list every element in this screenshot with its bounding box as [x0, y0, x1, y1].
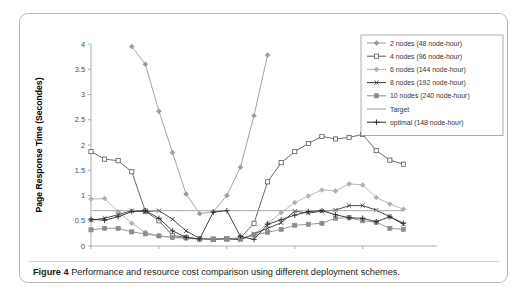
legend-label-0: 2 nodes (48 node-hour) [390, 40, 462, 48]
y-tick-label: 2.5 [75, 115, 85, 124]
legend-label-2: 6 nodes (144 node-hour) [390, 66, 466, 74]
y-tick-label: 2 [81, 141, 85, 150]
figure-caption: Figure 4 Performance and resource cost c… [33, 266, 499, 278]
y-tick-label: 3 [81, 90, 85, 99]
series-0 [129, 44, 270, 216]
series-1 [89, 132, 406, 241]
legend-label-3: 8 nodes (192 node-hour) [390, 79, 466, 87]
legend-label-5: Target [390, 106, 409, 114]
y-tick-label: 3.5 [75, 65, 85, 74]
chart-svg: 00.511.522.533.5405101520 2 nodes (48 no… [20, 14, 509, 250]
legend-label-1: 4 nodes (96 node-hour) [390, 53, 462, 61]
y-tick-label: 0 [81, 242, 85, 250]
chart-plot-area: 00.511.522.533.5405101520 2 nodes (48 no… [20, 14, 509, 250]
y-tick-label: 4 [81, 40, 85, 49]
chart-legend: 2 nodes (48 node-hour)4 nodes (96 node-h… [361, 35, 503, 135]
figure-caption-label: Figure 4 [33, 267, 69, 277]
legend-label-6: optimal (148 node-hour) [390, 119, 464, 127]
figure-caption-text: Performance and resource cost comparison… [71, 267, 400, 277]
series-group [88, 44, 406, 242]
figure-card: 00.511.522.533.5405101520 2 nodes (48 no… [19, 13, 508, 283]
y-tick-label: 0.5 [75, 216, 85, 225]
legend-label-4: 10 nodes (240 node-hour) [390, 92, 470, 100]
y-tick-label: 1 [81, 191, 85, 200]
caption-divider [29, 261, 499, 262]
y-axis-title: Page Response Time (Secondes) [34, 77, 44, 212]
y-tick-label: 1.5 [75, 166, 85, 175]
